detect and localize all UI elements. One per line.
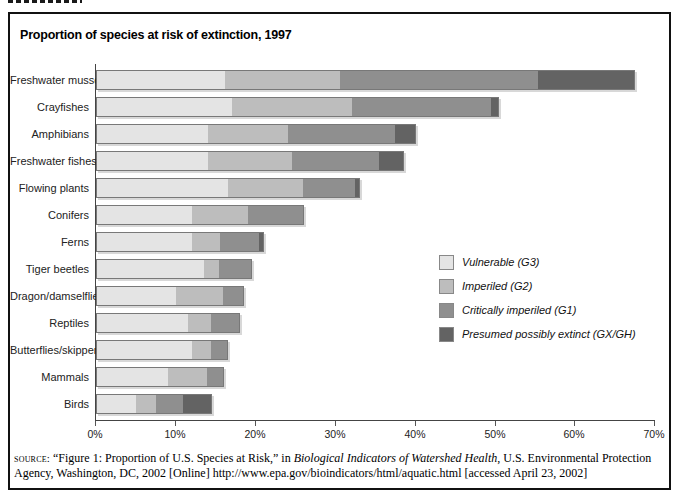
category-label: Ferns <box>10 232 89 252</box>
legend-label: Critically imperiled (G1) <box>462 303 576 318</box>
bar-segment <box>97 125 208 143</box>
bar-segment <box>204 260 220 278</box>
source-text-1: “Figure 1: Proportion of U.S. Species at… <box>50 451 294 465</box>
clipped-text-fragment <box>8 0 82 3</box>
bar-segment <box>97 341 192 359</box>
bar-segment <box>97 179 228 197</box>
bar-segment <box>192 341 212 359</box>
bar-row <box>96 97 499 117</box>
bar-segment <box>192 206 247 224</box>
bar-segment <box>228 179 303 197</box>
category-label: Dragon/damselflies <box>10 286 89 306</box>
legend-label: Imperiled (G2) <box>462 279 532 294</box>
bar-segment <box>288 125 395 143</box>
x-axis-tick <box>574 421 575 426</box>
legend-swatch <box>439 303 454 318</box>
source-note: source: “Figure 1: Proportion of U.S. Sp… <box>14 451 662 481</box>
category-label: Butterflies/skippers <box>10 340 89 360</box>
bar-segment <box>97 395 136 413</box>
legend-swatch <box>439 279 454 294</box>
bar-row <box>96 178 360 198</box>
bar-segment <box>156 395 184 413</box>
bar-segment <box>97 206 192 224</box>
x-axis-tick-label: 40% <box>395 428 435 440</box>
bar-segment <box>248 206 303 224</box>
bar-segment <box>491 98 498 116</box>
bar-segment <box>292 152 379 170</box>
x-axis-tick-label: 30% <box>315 428 355 440</box>
bar-row <box>96 286 244 306</box>
bar-segment <box>232 98 351 116</box>
bar-segment <box>219 260 251 278</box>
bar-row <box>96 232 264 252</box>
bar-segment <box>97 233 192 251</box>
bar-segment <box>207 368 223 386</box>
bar-row <box>96 151 404 171</box>
bar-segment <box>97 287 176 305</box>
bar-segment <box>188 314 212 332</box>
bar-segment <box>192 233 220 251</box>
x-axis-tick-label: 60% <box>554 428 594 440</box>
category-label: Amphibians <box>10 124 89 144</box>
bar-row <box>96 340 228 360</box>
legend-swatch <box>439 255 454 270</box>
legend-swatch <box>439 327 454 342</box>
bar-segment <box>97 98 232 116</box>
legend-label: Presumed possibly extinct (GX/GH) <box>462 327 636 342</box>
bar-segment <box>395 125 415 143</box>
bar-segment <box>97 368 168 386</box>
category-label: Mammals <box>10 367 89 387</box>
bar-segment <box>538 71 634 89</box>
bar-segment <box>97 71 225 89</box>
bar-row <box>96 313 240 333</box>
bar-segment <box>168 368 207 386</box>
category-label: Tiger beetles <box>10 259 89 279</box>
category-label: Birds <box>10 394 89 414</box>
bar-row <box>96 70 635 90</box>
x-axis-tick <box>335 421 336 426</box>
bar-row <box>96 394 212 414</box>
category-label: Conifers <box>10 205 89 225</box>
bar-segment <box>379 152 403 170</box>
x-axis-tick <box>495 421 496 426</box>
bar-segment <box>211 314 239 332</box>
bar-segment <box>176 287 223 305</box>
bar-segment <box>340 71 538 89</box>
bar-row <box>96 205 304 225</box>
bar-row <box>96 367 224 387</box>
source-book-title: Biological Indicators of Watershed Healt… <box>294 451 498 465</box>
bar-segment <box>352 98 491 116</box>
chart-title: Proportion of species at risk of extinct… <box>20 28 292 42</box>
x-axis-line <box>95 420 655 421</box>
category-label: Freshwater fishes <box>10 151 89 171</box>
bar-segment <box>223 287 243 305</box>
bar-segment <box>183 395 211 413</box>
bar-segment <box>220 233 260 251</box>
source-prefix: source: <box>14 452 50 464</box>
x-axis-tick-label: 20% <box>235 428 275 440</box>
bar-segment <box>259 233 263 251</box>
bar-segment <box>97 260 204 278</box>
bar-segment <box>303 179 355 197</box>
bar-segment <box>208 152 291 170</box>
x-axis-tick-label: 70% <box>634 428 674 440</box>
x-axis-tick <box>95 421 96 426</box>
x-axis-tick <box>175 421 176 426</box>
bar-segment <box>211 341 227 359</box>
bar-segment <box>208 125 288 143</box>
bar-segment <box>97 152 208 170</box>
bar-row <box>96 124 416 144</box>
bar-segment <box>97 314 188 332</box>
x-axis-tick-label: 50% <box>475 428 515 440</box>
category-label: Crayfishes <box>10 97 89 117</box>
x-axis-tick <box>654 421 655 426</box>
bar-segment <box>136 395 156 413</box>
category-label: Flowing plants <box>10 178 89 198</box>
legend-label: Vulnerable (G3) <box>462 255 539 270</box>
bar-segment <box>355 179 359 197</box>
x-axis-tick-label: 0% <box>75 428 115 440</box>
x-axis-tick <box>415 421 416 426</box>
bar-row <box>96 259 252 279</box>
figure-frame: Proportion of species at risk of extinct… <box>8 12 671 490</box>
x-axis-tick <box>255 421 256 426</box>
